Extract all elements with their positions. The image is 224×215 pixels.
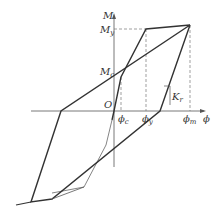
- phic-label: ϕc: [118, 113, 129, 126]
- mc-label: Mc: [99, 66, 114, 79]
- y-axis-label: M: [102, 10, 114, 21]
- hysteresis-diagram: M My Mc O ϕc ϕy ϕm ϕ Kr: [0, 0, 224, 215]
- origin-label: O: [104, 99, 112, 110]
- kr-label: Kr: [171, 91, 183, 104]
- reloading-line: [52, 187, 84, 199]
- hysteresis-loop: [31, 25, 190, 202]
- negative-tail: [16, 202, 31, 205]
- negative-skeleton: [52, 120, 112, 193]
- phim-label: ϕm: [183, 113, 197, 126]
- my-label: My: [99, 24, 115, 37]
- skeleton-curve: [112, 25, 190, 120]
- x-axis-label: ϕ: [203, 113, 210, 124]
